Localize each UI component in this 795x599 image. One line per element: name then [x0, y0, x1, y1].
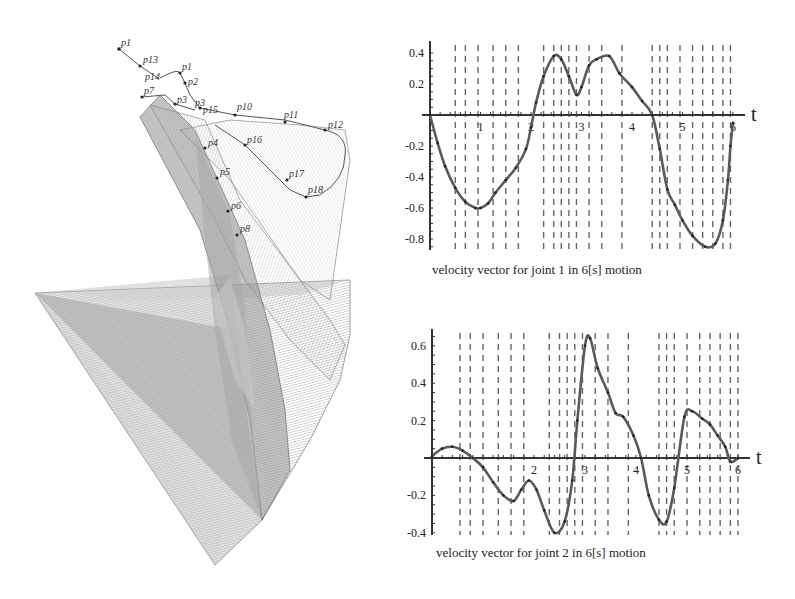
svg-text:5: 5	[680, 120, 686, 134]
chart1-axes: t	[422, 41, 757, 250]
svg-text:0.4: 0.4	[411, 376, 426, 390]
c2-t-axis-label: t	[756, 446, 762, 468]
figure: p1 p13 p14 p1 p2 p7 p3 p3 p15 p10 p11 p1…	[0, 0, 795, 599]
svg-text:6: 6	[730, 120, 736, 134]
chart1-grid	[455, 45, 730, 250]
swept-surface-diagram: p1 p13 p14 p1 p2 p7 p3 p3 p15 p10 p11 p1…	[0, 0, 400, 599]
svg-text:p12: p12	[327, 119, 343, 130]
chart2-caption: velocity vector for joint 2 in 6[s] moti…	[436, 545, 646, 561]
svg-text:p11: p11	[283, 109, 298, 120]
svg-text:2: 2	[528, 120, 534, 134]
svg-text:p17: p17	[288, 168, 305, 179]
svg-text:-0.2: -0.2	[407, 488, 426, 502]
chart1-line	[430, 55, 733, 248]
svg-text:p14: p14	[144, 71, 160, 82]
svg-text:3: 3	[579, 120, 585, 134]
chart1-markers	[429, 55, 735, 248]
svg-text:p13: p13	[142, 54, 158, 65]
svg-text:p7: p7	[143, 85, 155, 96]
chart1-ticks: 0.40.2-0.2-0.4-0.6-0.8123456	[405, 46, 736, 246]
svg-text:5: 5	[684, 463, 690, 477]
svg-text:p15: p15	[202, 104, 218, 115]
svg-text:-0.6: -0.6	[405, 201, 424, 215]
svg-text:p1: p1	[181, 61, 192, 72]
svg-text:3: 3	[582, 463, 588, 477]
svg-text:p3: p3	[176, 94, 187, 105]
svg-text:p18: p18	[307, 184, 323, 195]
chart2-grid	[460, 333, 738, 535]
svg-text:p4: p4	[207, 137, 218, 148]
svg-text:2: 2	[531, 463, 537, 477]
svg-text:p10: p10	[236, 101, 252, 112]
svg-text:-0.4: -0.4	[407, 526, 426, 540]
chart2-markers	[431, 337, 740, 534]
svg-text:4: 4	[633, 463, 639, 477]
svg-text:p6: p6	[230, 200, 241, 211]
svg-text:6: 6	[735, 463, 741, 477]
chart2-line	[432, 335, 738, 533]
svg-text:p16: p16	[246, 134, 262, 145]
svg-text:p8: p8	[239, 223, 250, 234]
svg-text:-0.8: -0.8	[405, 232, 424, 246]
svg-text:1: 1	[478, 120, 484, 134]
c1-t-axis-label: t	[751, 103, 757, 125]
svg-text:p5: p5	[219, 166, 230, 177]
svg-text:0.2: 0.2	[409, 77, 424, 91]
svg-text:p2: p2	[187, 76, 198, 87]
svg-text:0.4: 0.4	[409, 46, 424, 60]
svg-text:p1: p1	[120, 37, 131, 48]
chart2-ticks: 0.60.40.2-0.2-0.423456	[407, 339, 741, 540]
svg-text:0.2: 0.2	[411, 414, 426, 428]
svg-text:-0.4: -0.4	[405, 170, 424, 184]
chart2-axes: t	[424, 329, 762, 535]
svg-text:4: 4	[629, 120, 635, 134]
chart1-caption: velocity vector for joint 1 in 6[s] moti…	[432, 262, 642, 278]
svg-text:0.6: 0.6	[411, 339, 426, 353]
svg-text:-0.2: -0.2	[405, 139, 424, 153]
